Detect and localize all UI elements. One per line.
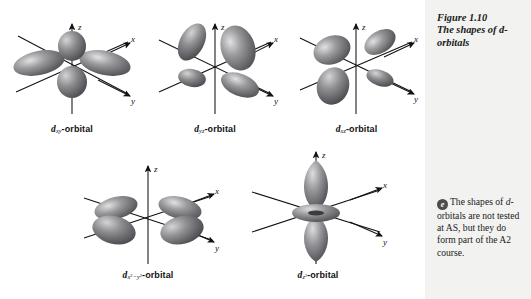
- svg-text:y: y: [382, 237, 387, 247]
- svg-text:z: z: [153, 164, 158, 174]
- svg-text:y: y: [214, 243, 219, 253]
- svg-text:z: z: [321, 150, 326, 160]
- orbital-dx2y2-label: dx2−y2-orbital: [62, 270, 234, 280]
- svg-text:z: z: [77, 22, 82, 32]
- orbital-dz2-diagram: z x y: [238, 146, 398, 270]
- sidebar: Figure 1.10 The shapes of d-orbitals eTh…: [425, 0, 531, 299]
- svg-text:y: y: [413, 94, 418, 104]
- svg-text:z: z: [361, 22, 366, 32]
- orbital-dx2y2-diagram: z x y: [62, 152, 234, 270]
- figure-page: z x y dxy-orbital: [0, 0, 531, 299]
- sidebar-note: eThe shapes of d-orbitals are not tested…: [437, 196, 527, 259]
- svg-text:x: x: [413, 34, 418, 44]
- figure-caption: Figure 1.10 The shapes of d-orbitals: [437, 12, 523, 49]
- svg-text:z: z: [220, 22, 225, 32]
- svg-text:y: y: [130, 96, 135, 106]
- orbital-dxy-diagram: z x y: [2, 6, 142, 124]
- svg-text:x: x: [273, 34, 278, 44]
- orbital-dyz-label: dyz-orbital: [145, 124, 285, 134]
- orbital-dyz-diagram: z x y: [145, 6, 285, 124]
- orbital-dxy-label: dxy-orbital: [2, 124, 142, 134]
- orbital-dxz: z x y dxz-orbital: [288, 6, 425, 134]
- orbital-dxy: z x y dxy-orbital: [2, 6, 142, 134]
- figure-caption-text: The shapes of d-orbitals: [437, 24, 508, 47]
- svg-text:x: x: [214, 186, 219, 196]
- orbital-dxz-label: dxz-orbital: [288, 124, 425, 134]
- orbital-figure-area: z x y dxy-orbital: [0, 0, 425, 299]
- orbital-dx2-y2: z x y dx2−y2-orbital: [62, 152, 234, 280]
- figure-number: Figure 1.10: [437, 12, 523, 24]
- orbital-dz2: z x y dz2-orbital: [238, 146, 398, 280]
- sidebar-note-line1: The shapes of: [450, 196, 503, 207]
- orbital-dyz: z x y dyz-orbital: [145, 6, 285, 134]
- svg-text:y: y: [273, 96, 278, 106]
- e-resource-icon: e: [437, 199, 448, 210]
- orbital-dxz-diagram: z x y: [288, 6, 425, 124]
- orbital-dz2-label: dz2-orbital: [238, 270, 398, 280]
- svg-text:x: x: [382, 180, 387, 190]
- svg-text:x: x: [130, 34, 135, 44]
